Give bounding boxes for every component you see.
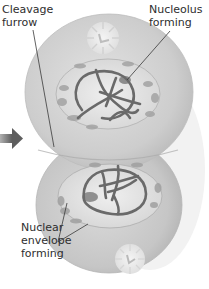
aster-top-icon	[87, 22, 119, 54]
nucleus-top	[56, 59, 160, 130]
label-nucleolus-forming: Nucleolus forming	[149, 3, 203, 29]
progression-arrow-icon	[0, 128, 23, 149]
label-nuclear-envelope-forming: Nuclear envelope forming	[21, 221, 72, 260]
label-cleavage-furrow: Cleavage furrow	[2, 3, 53, 29]
aster-bottom-icon	[115, 244, 145, 274]
